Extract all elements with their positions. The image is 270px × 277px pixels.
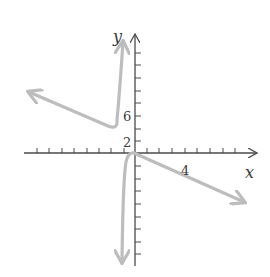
curve-left-branch (29, 42, 123, 127)
x-axis (24, 148, 257, 153)
x-tick-label-4: 4 (181, 163, 189, 178)
y-axis-label: y (112, 27, 123, 46)
graph: y x 6 2 4 (0, 0, 270, 277)
y-axis (135, 34, 141, 266)
y-tick-label-6: 6 (123, 109, 131, 124)
y-tick-label-2: 2 (123, 135, 131, 150)
x-axis-label: x (245, 163, 254, 182)
